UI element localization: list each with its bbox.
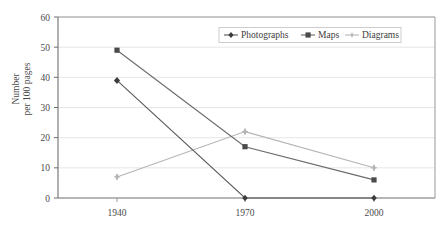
- y-tick-label-60: 60: [41, 13, 51, 23]
- line-chart-plot: 60 50 40 30 20 10 0 1940 1970 2000: [0, 0, 446, 234]
- y-tick-label-20: 20: [41, 133, 51, 143]
- legend-label-diagrams: Diagrams: [362, 30, 399, 40]
- series-maps: [114, 48, 376, 183]
- y-tick-label-10: 10: [41, 163, 51, 173]
- series-diagrams: [114, 129, 377, 180]
- series-photographs-line: [117, 80, 374, 198]
- y-tick-label-30: 30: [41, 103, 51, 113]
- y-tick-label-50: 50: [41, 43, 51, 53]
- marker-diagrams-1940: [114, 174, 120, 180]
- series-photographs-markers: [114, 77, 377, 201]
- marker-maps-1970: [242, 144, 247, 149]
- y-tick-label-40: 40: [41, 73, 51, 83]
- marker-maps-2000: [371, 177, 376, 182]
- x-tick-labels: 1940 1970 2000: [108, 208, 384, 218]
- x-tick-label-1970: 1970: [236, 208, 255, 218]
- legend-marker-maps-icon: [306, 32, 311, 37]
- chart-figure: Number per 100 pages: [0, 0, 446, 234]
- marker-photographs-2000: [371, 195, 377, 201]
- y-tick-labels: 60 50 40 30 20 10 0: [41, 13, 51, 204]
- marker-maps-1940: [114, 48, 119, 53]
- legend-label-maps: Maps: [318, 30, 339, 40]
- series-photographs: [114, 77, 377, 201]
- marker-diagrams-1970: [242, 129, 248, 135]
- y-tick-marks: [54, 17, 58, 198]
- x-tick-label-1940: 1940: [108, 208, 127, 218]
- series-maps-markers: [114, 48, 376, 183]
- series-diagrams-markers: [114, 129, 377, 180]
- chart-legend[interactable]: Photographs Maps Diagrams: [219, 28, 401, 43]
- y-tick-label-0: 0: [45, 194, 50, 204]
- legend-label-photographs: Photographs: [241, 30, 289, 40]
- series-maps-line: [117, 50, 374, 180]
- x-tick-label-2000: 2000: [365, 208, 384, 218]
- marker-diagrams-2000: [371, 165, 377, 171]
